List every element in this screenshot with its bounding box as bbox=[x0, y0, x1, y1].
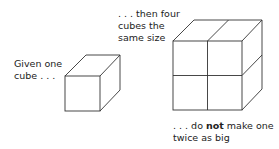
then-four-cubes-label: . . . then four cubes the same size bbox=[118, 8, 180, 44]
label-line: same size bbox=[118, 32, 180, 44]
do-not-label: . . . do not make one twice as big bbox=[173, 120, 274, 144]
given-one-cube-label: Given one cube . . . bbox=[14, 58, 62, 82]
label-line: Given one bbox=[14, 58, 62, 70]
label-line: . . . do not make one bbox=[173, 120, 274, 132]
emphasis-text: not bbox=[206, 120, 224, 131]
label-line: cube . . . bbox=[14, 70, 62, 82]
label-text: . . . do bbox=[173, 120, 206, 131]
label-text: make one bbox=[224, 120, 274, 131]
big-cube bbox=[173, 20, 262, 110]
label-line: twice as big bbox=[173, 132, 274, 144]
label-line: . . . then four bbox=[118, 8, 180, 20]
small-cube bbox=[65, 55, 120, 111]
label-line: cubes the bbox=[118, 20, 180, 32]
